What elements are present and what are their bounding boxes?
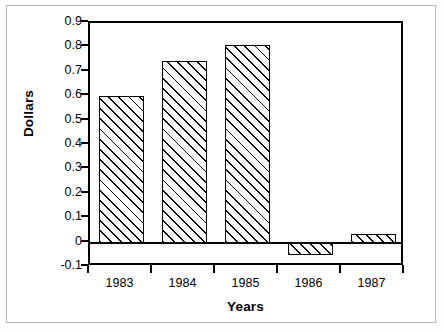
y-axis-tick-labels: 0.90.80.70.60.50.40.30.20.10-0.1: [34, 0, 82, 332]
y-tick-mark: [81, 166, 88, 168]
y-tick-mark: [81, 20, 88, 22]
x-tick-mark: [402, 265, 404, 273]
y-tick-mark: [81, 44, 88, 46]
y-tick-mark: [81, 142, 88, 144]
plot-area: [88, 21, 403, 265]
x-tick-label: 1987: [340, 276, 403, 290]
x-tick-mark: [213, 265, 215, 273]
y-tick-mark: [81, 215, 88, 217]
y-tick-label: 0.6: [38, 88, 82, 101]
bar-1983: [99, 96, 144, 242]
y-tick-label: 0.3: [38, 161, 82, 174]
y-tick-label: 0.8: [38, 39, 82, 52]
x-tick-label: 1983: [88, 276, 151, 290]
y-tick-label: 0.5: [38, 112, 82, 125]
y-tick-mark: [81, 93, 88, 95]
chart-page: Dollars 0.90.80.70.60.50.40.30.20.10-0.1…: [0, 0, 443, 332]
y-tick-mark: [81, 240, 88, 242]
x-tick-mark: [339, 265, 341, 273]
y-tick-label: -0.1: [38, 259, 82, 272]
y-tick-mark: [81, 191, 88, 193]
y-tick-label: 0.2: [38, 186, 82, 199]
bar-chart: Dollars 0.90.80.70.60.50.40.30.20.10-0.1…: [0, 0, 443, 332]
x-axis-title: Years: [88, 299, 403, 314]
x-tick-label: 1986: [277, 276, 340, 290]
bar-1987: [351, 234, 396, 243]
x-tick-mark: [87, 265, 89, 273]
bar-1986: [288, 243, 333, 255]
y-tick-mark: [81, 118, 88, 120]
bar-1984: [162, 61, 207, 243]
bar-1985: [225, 45, 270, 243]
x-tick-mark: [276, 265, 278, 273]
y-tick-label: 0: [38, 234, 82, 247]
y-tick-label: 0.9: [38, 15, 82, 28]
x-tick-label: 1985: [214, 276, 277, 290]
x-axis-line: [88, 263, 403, 265]
y-tick-mark: [81, 69, 88, 71]
x-tick-label: 1984: [151, 276, 214, 290]
y-tick-label: 0.1: [38, 210, 82, 223]
y-tick-label: 0.4: [38, 137, 82, 150]
y-tick-label: 0.7: [38, 64, 82, 77]
x-tick-mark: [150, 265, 152, 273]
